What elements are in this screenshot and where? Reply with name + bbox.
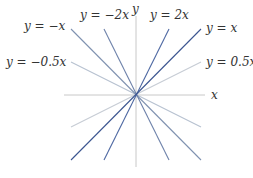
y-axis-label: y — [131, 2, 139, 16]
label-y-neg-2x: y = −2x — [79, 8, 129, 22]
label-y-neg-half-x: y = −0.5x — [5, 55, 67, 69]
label-y-half-x: y = 0.5x — [205, 55, 253, 69]
label-y-2x: y = 2x — [149, 8, 189, 22]
label-y-neg-x: y = −x — [23, 19, 66, 33]
line-family-chart: y x y = −x y = −2x y = 2x y = x y = −0.5… — [0, 0, 253, 178]
x-axis-label: x — [211, 88, 218, 102]
label-y-x: y = x — [205, 21, 237, 35]
